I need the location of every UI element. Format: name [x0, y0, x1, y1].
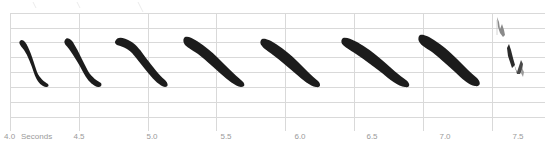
tick-label-5-0: 5.0	[146, 132, 158, 141]
note-6	[341, 38, 409, 87]
note-3	[115, 38, 168, 87]
note-8-faint	[497, 17, 524, 77]
horizontal-gridlines	[10, 14, 545, 118]
x-axis-title: Seconds	[21, 132, 52, 141]
tick-label-7-5: 7.5	[512, 132, 524, 141]
note-1	[19, 40, 48, 87]
tick-label-5-5: 5.5	[220, 132, 232, 141]
tick-label-6-0: 6.0	[294, 132, 306, 141]
tick-label-6-5: 6.5	[366, 132, 378, 141]
faint-artifacts	[33, 2, 143, 12]
note-5	[260, 39, 320, 87]
spectrogram-chart: 4.0 Seconds 4.5 5.0 5.5 6.0 6.5 7.0 7.5	[0, 0, 549, 147]
tick-label-4-0: 4.0	[4, 132, 16, 141]
note-4	[183, 37, 244, 87]
x-axis-labels: 4.0 Seconds 4.5 5.0 5.5 6.0 6.5 7.0 7.5	[4, 132, 524, 141]
tick-label-7-0: 7.0	[439, 132, 451, 141]
tick-label-4-5: 4.5	[73, 132, 85, 141]
note-2	[64, 38, 101, 87]
